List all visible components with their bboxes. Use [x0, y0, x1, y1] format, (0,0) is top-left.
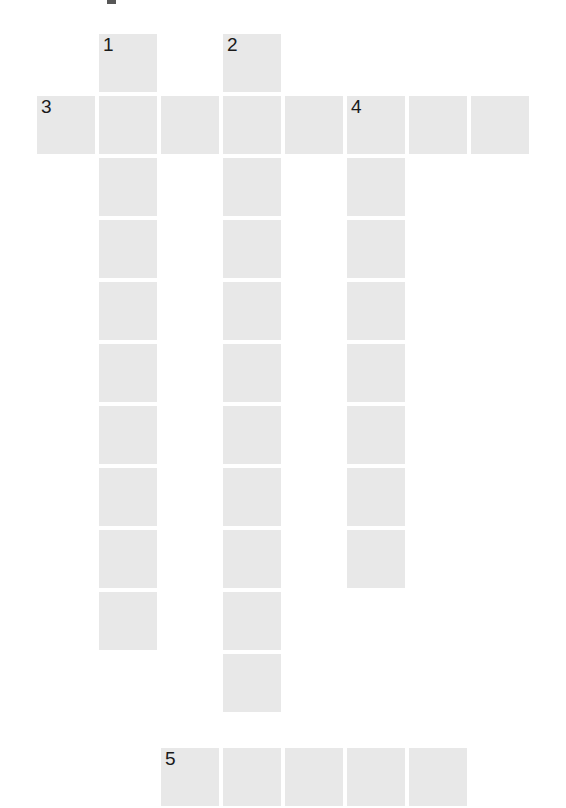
- crossword-cell[interactable]: [409, 748, 467, 806]
- crossword-cell[interactable]: 1: [99, 34, 157, 92]
- crossword-cell[interactable]: [99, 530, 157, 588]
- crossword-cell[interactable]: [99, 468, 157, 526]
- crossword-cell[interactable]: [223, 158, 281, 216]
- crossword-cell[interactable]: 3: [37, 96, 95, 154]
- crossword-cell[interactable]: [471, 96, 529, 154]
- crossword-cell[interactable]: [99, 220, 157, 278]
- crossword-grid[interactable]: 12345: [0, 0, 566, 808]
- crossword-cell[interactable]: [99, 406, 157, 464]
- crossword-cell[interactable]: [99, 592, 157, 650]
- crossword-cell[interactable]: 5: [161, 748, 219, 806]
- crossword-cell[interactable]: [223, 748, 281, 806]
- cell-number-1: 1: [103, 35, 114, 55]
- cell-number-2: 2: [227, 35, 238, 55]
- crossword-cell[interactable]: [99, 158, 157, 216]
- crossword-cell[interactable]: [285, 96, 343, 154]
- crossword-cell[interactable]: [223, 530, 281, 588]
- crossword-cell[interactable]: [223, 96, 281, 154]
- crossword-cell[interactable]: [347, 282, 405, 340]
- crossword-cell[interactable]: [285, 748, 343, 806]
- cell-number-4: 4: [351, 97, 362, 117]
- crossword-cell[interactable]: [223, 468, 281, 526]
- crossword-cell[interactable]: [347, 748, 405, 806]
- crossword-cell[interactable]: [223, 344, 281, 402]
- crossword-cell[interactable]: [99, 282, 157, 340]
- crossword-cell[interactable]: [223, 592, 281, 650]
- crossword-cell[interactable]: [223, 220, 281, 278]
- crossword-puzzle: 12345: [0, 0, 566, 808]
- crossword-cell[interactable]: [409, 96, 467, 154]
- crossword-cell[interactable]: [99, 344, 157, 402]
- crossword-cell[interactable]: [347, 406, 405, 464]
- crossword-cell[interactable]: [223, 406, 281, 464]
- crossword-cell[interactable]: [161, 96, 219, 154]
- crossword-cell[interactable]: [347, 158, 405, 216]
- crossword-cell[interactable]: 4: [347, 96, 405, 154]
- crossword-cell[interactable]: [347, 468, 405, 526]
- crossword-cell[interactable]: [223, 282, 281, 340]
- cell-number-3: 3: [41, 97, 52, 117]
- crossword-cell[interactable]: [347, 220, 405, 278]
- crossword-cell[interactable]: 2: [223, 34, 281, 92]
- crossword-cell[interactable]: [223, 654, 281, 712]
- crossword-cell[interactable]: [99, 96, 157, 154]
- crossword-cell[interactable]: [347, 344, 405, 402]
- cell-number-5: 5: [165, 749, 176, 769]
- crossword-cell[interactable]: [347, 530, 405, 588]
